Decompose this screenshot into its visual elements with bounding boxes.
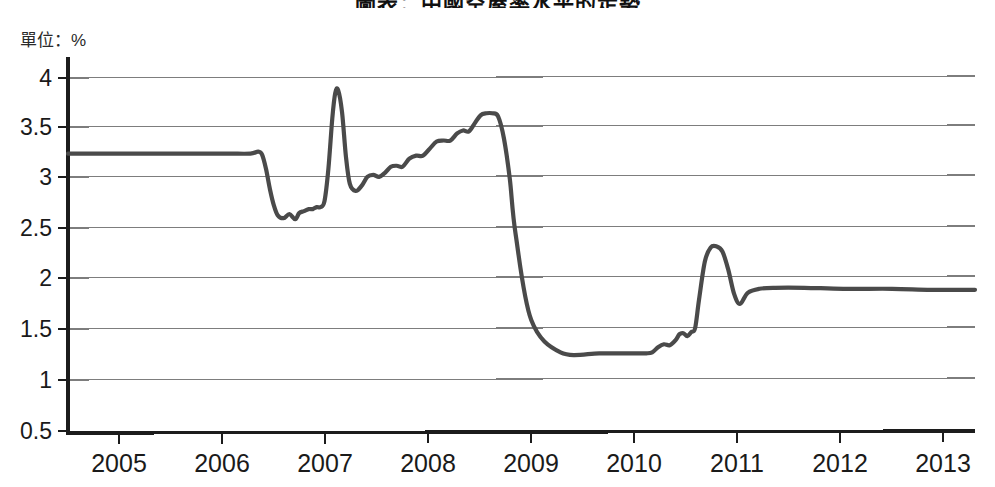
chart-plot-area: 4 3.5 3 2.5 2 1.5 1 0.5 2005 2006 2007 2… [0,0,995,487]
x-axis-line [66,431,975,433]
gridline-1 [68,378,975,380]
y-tick-label-0-5: 0.5 [20,418,52,444]
gridline-3 [68,175,975,177]
y-tick-label-3: 3 [39,164,52,190]
y-tick-label-1: 1 [39,367,52,393]
y-tick-label-1-5: 1.5 [20,316,52,342]
x-tick-label-2008: 2008 [400,449,456,477]
x-tick-label-2011: 2011 [710,449,764,477]
y-axis: 4 3.5 3 2.5 2 1.5 1 0.5 [20,57,68,444]
gridline-1-5 [68,327,975,329]
x-tick-label-2005: 2005 [91,449,147,477]
x-tick-label-2010: 2010 [606,449,662,477]
chart-container: 圖表：中國空屋率水平的走勢 單位：% 4 3.5 3 2.5 2 [0,0,995,487]
y-tick-label-4: 4 [39,65,52,91]
gridlines [68,76,975,380]
x-tick-label-2006: 2006 [194,449,250,477]
x-tick-label-2007: 2007 [297,449,353,477]
x-axis: 2005 2006 2007 2008 2009 2010 2011 2012 … [66,431,975,477]
x-tick-label-2009: 2009 [503,449,559,477]
gridline-4 [68,76,975,78]
x-tick-label-2012: 2012 [812,449,868,477]
y-tick-label-3-5: 3.5 [20,114,52,140]
y-tick-label-2-5: 2.5 [20,215,52,241]
gridline-2-5 [68,226,975,228]
y-tick-label-2: 2 [39,265,52,291]
x-tick-label-2013: 2013 [915,449,971,477]
data-series-line [68,88,975,355]
gridline-3-5 [68,125,975,127]
